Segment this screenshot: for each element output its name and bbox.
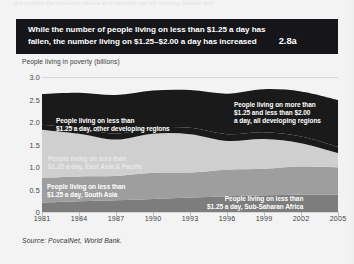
- x-axis-tick-mark: [227, 212, 228, 219]
- callout-eap-line-2: $1.25 a day, East Asia & Pacific: [48, 163, 143, 171]
- figure-page: the people the contents above and partia…: [0, 0, 354, 264]
- callout-ssa-line-1: People living on less than: [207, 195, 303, 203]
- y-axis-tick-label: 1.0: [10, 163, 40, 172]
- y-axis-title: People living in poverty (billions): [22, 58, 120, 65]
- callout-east-asia-pacific: People living on less than $1.25 a day, …: [48, 155, 143, 171]
- y-axis-tick-label: 2.5: [10, 95, 40, 104]
- callout-sa-line-2: $1.25 a day, South Asia: [47, 191, 126, 199]
- callout-more-line-1: People living on more than: [234, 101, 321, 109]
- callout-eap-line-1: People living on less than: [48, 155, 143, 163]
- figure-title-line-2: fallen, the number living on $1.25–$2.00…: [28, 36, 257, 48]
- y-axis-tick-label: 2.0: [10, 118, 40, 127]
- x-axis-tick-mark: [301, 212, 302, 219]
- callout-ssa-line-2: $1.25 a day, Sub-Saharan Africa: [207, 203, 303, 211]
- x-axis-tick-mark: [153, 212, 154, 219]
- x-axis-tick-mark: [190, 212, 191, 219]
- figure-number: 2.8a: [279, 36, 297, 46]
- callout-sa-line-1: People living on less than: [47, 183, 126, 191]
- callout-more-line-3: a day, all developing regions: [234, 117, 321, 125]
- x-axis-tick-mark: [42, 212, 43, 219]
- figure-title-banner: While the number of people living on les…: [16, 19, 338, 54]
- y-axis-tick-label: 1.5: [10, 140, 40, 149]
- x-axis-tick-mark: [79, 212, 80, 219]
- plot-area: 00.51.01.52.02.53.0 19811984198719901993…: [42, 77, 338, 212]
- callout-south-asia: People living on less than $1.25 a day, …: [47, 183, 126, 199]
- figure-title-line-1: While the number of people living on les…: [28, 24, 330, 36]
- x-axis-tick-mark: [264, 212, 265, 219]
- chart-container: People living in poverty (billions) 00.5…: [16, 57, 338, 233]
- page-edge-shadow: [345, 0, 354, 264]
- callout-other-developing-regions: People living on less than $1.25 a day, …: [56, 117, 170, 133]
- callout-more-than-1-25-less-than-2-00: People living on more than $1.25 and les…: [234, 101, 321, 126]
- callout-other-line-2: $1.25 a day, other developing regions: [56, 125, 170, 133]
- y-axis-tick-label: 3.0: [10, 73, 40, 82]
- y-axis-tick-label: 0.5: [10, 185, 40, 194]
- callout-more-line-2: $1.25 and less than $2.00: [234, 109, 321, 117]
- callout-sub-saharan-africa: People living on less than $1.25 a day, …: [207, 195, 303, 211]
- callout-other-line-1: People living on less than: [56, 117, 170, 125]
- x-axis-tick-mark: [116, 212, 117, 219]
- source-note: Source: PovcalNet, World Bank.: [22, 237, 122, 244]
- x-axis-tick-mark: [338, 212, 339, 219]
- cut-off-header-text: the people the contents above and partia…: [14, 0, 344, 7]
